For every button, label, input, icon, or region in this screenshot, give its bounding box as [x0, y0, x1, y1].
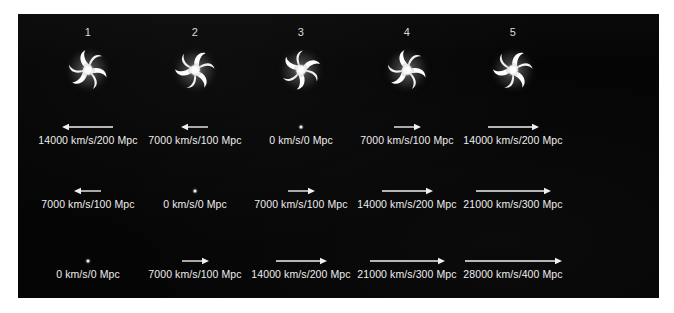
velocity-arrow-left-icon: [62, 123, 114, 132]
figure-root: 12345 14000 km/s/200 Mpc7000 km/s/100 Mp…: [0, 0, 674, 313]
velocity-arrow-right-icon: [393, 123, 421, 132]
velocity-arrow-right-icon: [275, 257, 327, 266]
velocity-arrow-right-icon: [369, 257, 445, 266]
spiral-galaxy-icon: [276, 45, 326, 95]
velocity-arrow-right-icon: [181, 257, 209, 266]
velocity-arrow-right-icon: [487, 123, 539, 132]
velocity-cell: 28000 km/s/400 Mpc: [449, 254, 577, 280]
spiral-galaxy-icon: [382, 45, 432, 95]
velocity-vector: [449, 120, 577, 134]
velocity-arrow-left-icon: [181, 123, 209, 132]
spiral-galaxy-icon: [170, 45, 220, 95]
velocity-arrow-right-icon: [381, 187, 433, 196]
spiral-galaxy-icon: [63, 45, 113, 95]
column-label-5: 5: [449, 26, 577, 38]
velocity-arrow-right-icon: [475, 187, 551, 196]
zero-velocity-dot-icon: [194, 190, 197, 193]
velocity-distance-label: 21000 km/s/300 Mpc: [449, 198, 577, 210]
velocity-vector: [449, 254, 577, 268]
galaxy-wrap: [449, 42, 577, 98]
velocity-arrow-right-icon: [287, 187, 315, 196]
velocity-cell: 21000 km/s/300 Mpc: [449, 184, 577, 210]
spiral-galaxy-icon: [488, 45, 538, 95]
zero-velocity-dot-icon: [87, 260, 90, 263]
velocity-distance-label: 28000 km/s/400 Mpc: [449, 268, 577, 280]
sky-panel: 12345 14000 km/s/200 Mpc7000 km/s/100 Mp…: [18, 14, 659, 298]
velocity-cell: 14000 km/s/200 Mpc: [449, 120, 577, 146]
galaxy-cell-5: [449, 42, 577, 98]
velocity-arrow-right-icon: [464, 257, 562, 266]
velocity-arrow-left-icon: [74, 187, 102, 196]
velocity-vector: [449, 184, 577, 198]
velocity-distance-label: 14000 km/s/200 Mpc: [449, 134, 577, 146]
zero-velocity-dot-icon: [300, 126, 303, 129]
